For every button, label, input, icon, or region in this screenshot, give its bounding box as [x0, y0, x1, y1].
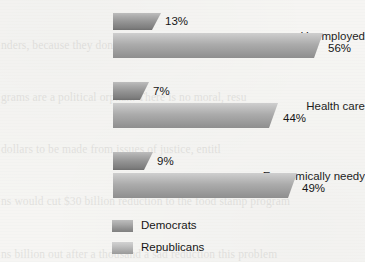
value-label-health-care-republicans: 44%	[283, 112, 306, 125]
legend-swatch-democrats	[112, 220, 133, 232]
bar-health-care-democrats	[113, 82, 149, 100]
legend-item-democrats: Democrats	[112, 220, 262, 233]
bar-unemployed-democrats	[113, 13, 161, 30]
value-label-health-care-democrats: 7%	[153, 85, 170, 98]
chart-legend: Democrats Republicans	[112, 220, 262, 256]
bar-economically-needy-republicans	[113, 173, 297, 198]
value-label-economically-needy-democrats: 9%	[157, 155, 174, 168]
bar-unemployed-republicans	[113, 33, 323, 58]
bar-health-care-republicans	[113, 103, 278, 128]
legend-label-democrats: Democrats	[141, 219, 197, 232]
bar-slab	[113, 82, 149, 100]
bar-chart: Unemployed 13% 56% Health care 7% 44% Ec…	[0, 0, 365, 262]
bar-slab	[113, 33, 323, 58]
value-label-unemployed-democrats: 13%	[165, 15, 188, 28]
value-label-economically-needy-republicans: 49%	[302, 182, 325, 195]
scanned-page: nders, because they don't have enough pu…	[0, 0, 365, 262]
bar-slab	[113, 173, 297, 198]
bar-economically-needy-democrats	[113, 152, 153, 170]
legend-item-republicans: Republicans	[112, 242, 262, 255]
legend-swatch-republicans	[112, 242, 133, 254]
bar-slab	[113, 13, 161, 30]
bar-slab	[113, 152, 153, 170]
legend-label-republicans: Republicans	[141, 241, 204, 254]
value-label-unemployed-republicans: 56%	[328, 42, 351, 55]
bar-slab	[113, 103, 278, 128]
